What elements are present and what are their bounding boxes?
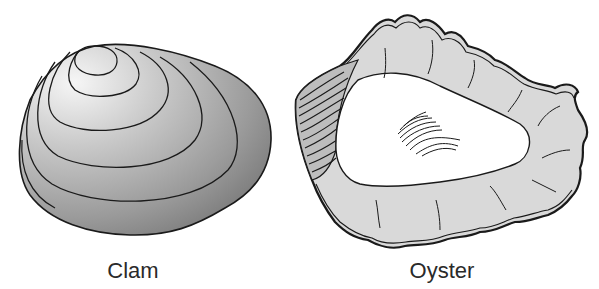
bivalve-diagram [0,0,599,289]
oyster-label: Oyster [410,258,475,284]
clam-shell-outline [19,44,271,235]
clam-label: Clam [107,258,158,284]
clam-illustration [19,44,271,235]
oyster-illustration [296,15,587,247]
